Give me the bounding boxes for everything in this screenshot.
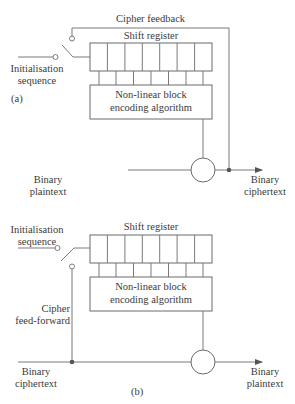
xor-icon [191, 158, 215, 182]
shift-register-box [90, 43, 212, 71]
init-sequence-label-b-2: sequence [6, 236, 68, 248]
register-to-algorithm-links-b [99, 263, 203, 277]
feedforward-contact-icon [70, 264, 75, 269]
panel-b-label: (b) [131, 386, 143, 398]
shift-register-box-b [90, 235, 212, 263]
feedforward-label-1: Cipher [0, 303, 70, 315]
cipher-feedback-diagram: Cipher feedback Shift register Non-linea… [0, 0, 295, 404]
ciphertext-input-label-1: Binary [6, 366, 66, 378]
xor-icon-b [191, 350, 215, 374]
ciphertext-input-label-2: ciphertext [6, 378, 66, 390]
switch-icon [62, 45, 73, 57]
register-to-algorithm-links [99, 71, 203, 85]
panel-a-label: (a) [11, 93, 23, 105]
plaintext-input-label-2: plaintext [18, 186, 78, 198]
algorithm-label-b-1: Non-linear block [90, 281, 212, 293]
init-contact-icon [53, 55, 58, 60]
plaintext-output-label-2: plaintext [237, 378, 293, 390]
algorithm-label-2: encoding algorithm [90, 102, 212, 114]
switch-icon-b [61, 248, 74, 261]
init-sequence-label-1: Initialisation [6, 63, 68, 75]
feedback-contact-icon [70, 36, 75, 41]
plaintext-output-label-1: Binary [237, 366, 293, 378]
init-sequence-label-b-1: Initialisation [6, 224, 68, 236]
shift-register-label-b: Shift register [90, 221, 212, 233]
shift-register-label: Shift register [90, 30, 212, 42]
feedforward-label-2: feed-forward [0, 315, 70, 327]
cipher-feedback-label: Cipher feedback [116, 13, 185, 25]
algorithm-label-b-2: encoding algorithm [90, 294, 212, 306]
ciphertext-output-label-1: Binary [237, 174, 293, 186]
junction-dot-icon [227, 168, 232, 173]
diagram-graphics [0, 0, 295, 404]
plaintext-input-label-1: Binary [18, 174, 78, 186]
ciphertext-output-label-2: ciphertext [237, 186, 293, 198]
init-sequence-label-2: sequence [6, 75, 68, 87]
junction-dot-icon-b [70, 360, 75, 365]
algorithm-label-1: Non-linear block [90, 89, 212, 101]
